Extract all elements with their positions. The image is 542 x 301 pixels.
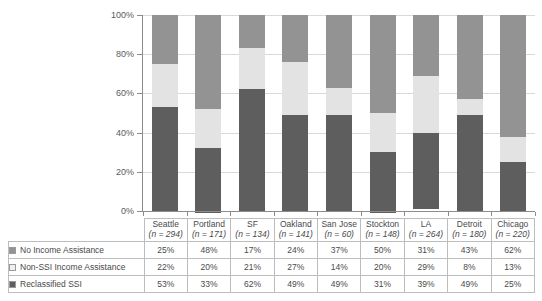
- table-row: No Income Assistance25%48%17%24%37%50%31…: [9, 242, 535, 259]
- x-axis-line: [142, 211, 535, 212]
- table-cell-value: 25%: [144, 242, 187, 259]
- table-cell-value: 22%: [144, 259, 187, 276]
- y-axis-tick: [137, 54, 142, 55]
- table-cell-value: 39%: [404, 276, 447, 293]
- y-axis-tick-label: 60%: [94, 89, 134, 98]
- table-cell-value: 31%: [361, 276, 404, 293]
- bar-segment: [370, 113, 396, 152]
- table-row: Non-SSI Income Assistance22%20%21%27%14%…: [9, 259, 535, 276]
- bar-segment: [282, 115, 308, 211]
- y-axis-tick: [137, 211, 142, 212]
- bar-segment: [326, 88, 352, 115]
- bar-segment: [370, 15, 396, 113]
- legend-label: No Income Assistance: [20, 245, 104, 255]
- table-header-row: Seattle(n = 294)Portland(n = 171)SF(n = …: [9, 219, 535, 242]
- legend-entry: Reclassified SSI: [9, 276, 145, 293]
- bar-segment: [500, 15, 526, 137]
- table-cell-value: 25%: [491, 276, 535, 293]
- bar-segment: [457, 15, 483, 99]
- x-axis-tick: [143, 212, 144, 216]
- bar-segment: [500, 162, 526, 211]
- bar-segment: [413, 133, 439, 209]
- x-axis-tick: [274, 212, 275, 216]
- y-axis-tick: [137, 133, 142, 134]
- table-cell-value: 53%: [144, 276, 187, 293]
- x-axis-tick: [317, 212, 318, 216]
- y-axis-tick-label: 80%: [94, 50, 134, 59]
- bar-column: [500, 15, 526, 211]
- table-column-header: Detroit(n = 180): [448, 219, 491, 242]
- column-header-sample-size: (n = 60): [318, 230, 360, 240]
- table-cell-value: 49%: [448, 276, 491, 293]
- table-cell-value: 62%: [231, 276, 274, 293]
- bar-segment: [239, 15, 265, 48]
- table-cell-value: 33%: [187, 276, 230, 293]
- bar-segment: [152, 107, 178, 211]
- table-column-header: Oakland(n = 141): [274, 219, 317, 242]
- table-cell-value: 43%: [448, 242, 491, 259]
- legend-swatch-icon: [9, 264, 16, 271]
- bar-column: [370, 15, 396, 211]
- table-cell-value: 37%: [318, 242, 361, 259]
- column-header-sample-size: (n = 148): [361, 230, 403, 240]
- x-axis-tick: [535, 212, 536, 216]
- y-axis-tick-label: 0%: [94, 207, 134, 216]
- table-cell-value: 49%: [274, 276, 317, 293]
- y-axis-line: [142, 15, 143, 212]
- legend-label: Non-SSI Income Assistance: [20, 262, 125, 272]
- bar-column: [457, 15, 483, 211]
- y-axis-tick-label: 100%: [94, 11, 134, 20]
- bar-segment: [457, 115, 483, 211]
- bar-segment: [195, 148, 221, 213]
- table-cell-value: 8%: [448, 259, 491, 276]
- table-header: Seattle(n = 294)Portland(n = 171)SF(n = …: [9, 219, 535, 242]
- table-corner-cell: [9, 219, 145, 242]
- column-header-sample-size: (n = 134): [231, 230, 273, 240]
- bar-segment: [282, 62, 308, 115]
- table-cell-value: 21%: [231, 259, 274, 276]
- bar-segment: [413, 76, 439, 133]
- legend-entry: Non-SSI Income Assistance: [9, 259, 145, 276]
- column-header-sample-size: (n = 180): [448, 230, 490, 240]
- bar-segment: [413, 15, 439, 76]
- legend-entry: No Income Assistance: [9, 242, 145, 259]
- table-column-header: SF(n = 134): [231, 219, 274, 242]
- legend-swatch-icon: [9, 281, 16, 288]
- table-cell-value: 24%: [274, 242, 317, 259]
- table-cell-value: 50%: [361, 242, 404, 259]
- bar-segment: [152, 15, 178, 64]
- table-cell-value: 29%: [404, 259, 447, 276]
- y-axis-tick-label: 40%: [94, 129, 134, 138]
- x-axis-tick: [491, 212, 492, 216]
- table-row: Reclassified SSI53%33%62%49%49%31%39%49%…: [9, 276, 535, 293]
- table-cell-value: 62%: [491, 242, 535, 259]
- bar-segment: [195, 15, 221, 109]
- y-axis-tick-label: 20%: [94, 168, 134, 177]
- x-axis-tick: [404, 212, 405, 216]
- bar-column: [326, 15, 352, 211]
- table-column-header: Seattle(n = 294): [144, 219, 187, 242]
- bar-segment: [195, 109, 221, 148]
- column-header-sample-size: (n = 171): [188, 230, 230, 240]
- bar-segment: [457, 99, 483, 115]
- bar-column: [282, 15, 308, 211]
- y-axis-tick: [137, 15, 142, 16]
- bar-column: [413, 15, 439, 211]
- column-header-sample-size: (n = 220): [492, 230, 535, 240]
- y-axis-tick: [137, 172, 142, 173]
- bar-segment: [282, 15, 308, 62]
- data-table: Seattle(n = 294)Portland(n = 171)SF(n = …: [8, 218, 535, 293]
- column-header-sample-size: (n = 141): [275, 230, 317, 240]
- bar-segment: [500, 137, 526, 162]
- x-axis-tick: [361, 212, 362, 216]
- x-axis-tick: [230, 212, 231, 216]
- y-axis-tick: [137, 93, 142, 94]
- table-cell-value: 48%: [187, 242, 230, 259]
- bar-segment: [152, 64, 178, 107]
- table-cell-value: 13%: [491, 259, 535, 276]
- bar-column: [239, 15, 265, 211]
- table-column-header: Portland(n = 171): [187, 219, 230, 242]
- table-cell-value: 14%: [318, 259, 361, 276]
- plot-area: [143, 15, 535, 211]
- bar-segment: [370, 152, 396, 213]
